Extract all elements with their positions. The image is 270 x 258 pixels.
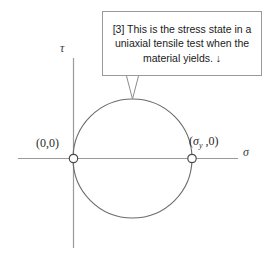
yield-point-label: (σy ,0): [189, 134, 218, 150]
callout-pointer: [127, 76, 139, 99]
callout-text: [3] This is the stress state in a uniaxi…: [103, 22, 261, 66]
origin-point-label: (0,0): [36, 136, 59, 151]
yield-label-close: ,0): [202, 134, 218, 148]
callout-box: [3] This is the stress state in a uniaxi…: [102, 11, 262, 76]
yield-marker[interactable]: [188, 154, 196, 162]
figure-canvas: [3] This is the stress state in a uniaxi…: [0, 0, 270, 258]
tau-axis-label: τ: [60, 41, 64, 56]
sigma-axis-label: σ: [243, 145, 249, 160]
origin-marker[interactable]: [69, 154, 77, 162]
